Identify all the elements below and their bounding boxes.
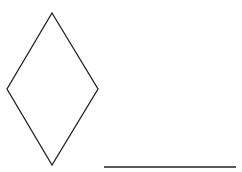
diagram-canvas (0, 0, 242, 172)
geometry-figure (0, 0, 242, 172)
diamond-shape (7, 13, 98, 165)
